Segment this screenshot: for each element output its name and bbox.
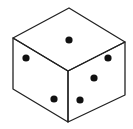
die-left-face xyxy=(13,38,68,122)
die-right-face xyxy=(68,42,125,122)
right-face-pip-lower xyxy=(76,96,83,103)
top-face-pip xyxy=(65,36,72,43)
die-diagram xyxy=(0,0,133,129)
left-face-pip-lower xyxy=(50,95,57,102)
left-face-pip-upper xyxy=(22,54,29,61)
right-face-pip-upper xyxy=(104,54,111,61)
right-face-pip-middle xyxy=(90,74,97,81)
